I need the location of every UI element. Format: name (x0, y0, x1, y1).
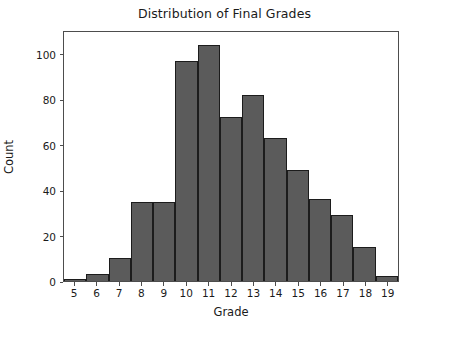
x-tick-mark (119, 282, 120, 286)
x-tick-mark (253, 282, 254, 286)
x-tick-label: 16 (309, 287, 333, 299)
histogram-bar (376, 276, 398, 281)
histogram-bar (242, 95, 264, 281)
x-tick-label: 17 (331, 287, 355, 299)
x-tick-label: 7 (107, 287, 131, 299)
x-tick-mark (387, 282, 388, 286)
histogram-bar (175, 61, 197, 281)
plot-area (63, 31, 399, 282)
x-tick-label: 19 (376, 287, 400, 299)
x-tick-mark (208, 282, 209, 286)
x-tick-label: 5 (62, 287, 86, 299)
x-tick-label: 6 (85, 287, 109, 299)
x-tick-label: 18 (353, 287, 377, 299)
histogram-bar (64, 279, 86, 281)
x-tick-mark (96, 282, 97, 286)
y-tick-label: 40 (43, 184, 56, 198)
x-tick-label: 8 (129, 287, 153, 299)
x-tick-mark (298, 282, 299, 286)
y-tick-label: 80 (43, 93, 56, 107)
histogram-figure: Distribution of Final Grades Count 02040… (0, 0, 449, 338)
x-tick-label: 11 (197, 287, 221, 299)
x-tick-mark (74, 282, 75, 286)
histogram-bar (331, 215, 353, 281)
histogram-bar (153, 202, 175, 282)
histogram-bar (309, 199, 331, 281)
histogram-bar (353, 247, 375, 281)
bar-series (64, 32, 398, 281)
x-tick-mark (231, 282, 232, 286)
y-tick-label: 60 (43, 139, 56, 153)
histogram-bar (220, 117, 242, 281)
y-tick-label: 0 (49, 275, 56, 289)
x-tick-mark (141, 282, 142, 286)
histogram-bar (131, 202, 153, 282)
x-tick-label: 14 (264, 287, 288, 299)
histogram-bar (109, 258, 131, 281)
chart-title: Distribution of Final Grades (0, 6, 449, 21)
y-axis-ticks: 020406080100 (0, 31, 63, 282)
x-tick-mark (365, 282, 366, 286)
x-tick-label: 10 (174, 287, 198, 299)
x-tick-mark (275, 282, 276, 286)
x-tick-label: 13 (241, 287, 265, 299)
y-tick-label: 20 (43, 230, 56, 244)
histogram-bar (198, 45, 220, 281)
x-tick-label: 15 (286, 287, 310, 299)
x-tick-mark (186, 282, 187, 286)
histogram-bar (287, 170, 309, 281)
x-tick-mark (163, 282, 164, 286)
x-tick-mark (320, 282, 321, 286)
x-tick-label: 12 (219, 287, 243, 299)
histogram-bar (264, 138, 286, 281)
x-tick-mark (343, 282, 344, 286)
x-axis-label: Grade (63, 305, 399, 319)
y-tick-label: 100 (36, 48, 56, 62)
x-tick-label: 9 (152, 287, 176, 299)
histogram-bar (86, 274, 108, 281)
